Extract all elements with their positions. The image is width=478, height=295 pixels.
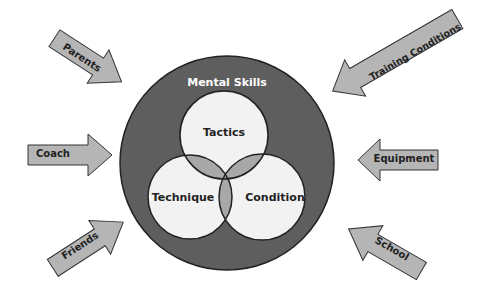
influence-diagram: Mental Skills Tactics Technique Conditio…	[0, 0, 478, 295]
arrow-training-conditions	[322, 1, 468, 109]
mental-skills-title: Mental Skills	[177, 76, 277, 89]
condition-label: Condition	[240, 191, 310, 204]
technique-label: Technique	[148, 191, 218, 204]
tactics-label: Tactics	[194, 126, 254, 139]
equipment-label: Equipment	[370, 153, 438, 164]
coach-label: Coach	[28, 148, 78, 159]
